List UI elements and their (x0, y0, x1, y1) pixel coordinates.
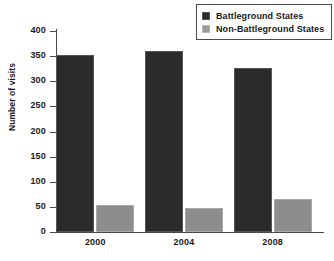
y-axis-tick-mark (50, 56, 56, 57)
y-axis-tick-label: 400 (0, 25, 46, 35)
gray-square-swatch (202, 25, 210, 33)
y-axis-tick-label: 0 (0, 226, 46, 236)
y-axis-tick-label: 150 (0, 151, 46, 161)
y-axis-tick-mark (50, 207, 56, 208)
y-axis-tick-mark (50, 31, 56, 32)
bar-2004-series0 (145, 51, 183, 232)
chart-legend: Battleground StatesNon-Battleground Stat… (196, 4, 332, 40)
x-axis-label-2004: 2004 (149, 237, 219, 247)
plot-area (57, 31, 323, 232)
black-square-swatch (202, 12, 210, 20)
y-axis-tick-label: 300 (0, 75, 46, 85)
y-axis-tick: 0 (0, 232, 334, 233)
bar-2000-series1 (96, 205, 134, 232)
y-axis-tick-label: 350 (0, 50, 46, 60)
y-axis-tick-mark (50, 232, 56, 233)
bar-2008-series0 (234, 68, 272, 232)
legend-item-1: Non-Battleground States (202, 22, 324, 35)
y-axis-tick-mark (50, 157, 56, 158)
y-axis-tick-label: 50 (0, 201, 46, 211)
y-axis-tick-mark (50, 81, 56, 82)
y-axis-tick-label: 250 (0, 100, 46, 110)
y-axis-tick-mark (50, 106, 56, 107)
x-axis-label-2008: 2008 (238, 237, 308, 247)
x-axis-label-2000: 2000 (60, 237, 130, 247)
y-axis-tick-label: 100 (0, 176, 46, 186)
y-axis-tick-label: 200 (0, 126, 46, 136)
bar-2008-series1 (274, 199, 312, 232)
legend-item-label: Battleground States (216, 11, 303, 21)
y-axis-tick-mark (50, 182, 56, 183)
legend-item-0: Battleground States (202, 9, 324, 22)
bar-2004-series1 (185, 208, 223, 232)
y-axis-tick-mark (50, 132, 56, 133)
bar-2000-series0 (56, 55, 94, 232)
bar-chart: Number of visits 40035030025020015010050… (0, 0, 334, 261)
legend-item-label: Non-Battleground States (216, 24, 324, 34)
